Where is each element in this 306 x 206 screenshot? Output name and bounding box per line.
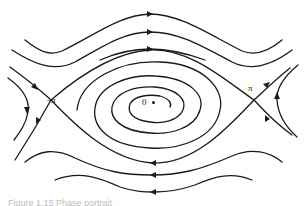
origin-point bbox=[152, 101, 155, 104]
spiral-trajectory bbox=[77, 62, 221, 148]
label-right-saddle: π bbox=[248, 84, 253, 93]
arrow-down-icon bbox=[24, 107, 30, 114]
arrow-right-icon bbox=[147, 29, 153, 35]
top-trajectory-1 bbox=[25, 14, 282, 53]
label-left-saddle: −π bbox=[46, 96, 56, 105]
figure-caption: Figure 1.15 Phase portrait bbox=[8, 199, 112, 206]
bottom-trajectory-2 bbox=[55, 175, 252, 192]
label-origin: 0 bbox=[142, 98, 147, 107]
arrow-up-icon bbox=[274, 92, 280, 99]
separatrix-lower bbox=[15, 100, 292, 163]
arrow-right-icon bbox=[147, 11, 153, 17]
arrow-left-icon bbox=[150, 172, 156, 178]
arrow-left-icon bbox=[150, 160, 156, 166]
arrow-left-icon bbox=[150, 189, 156, 195]
arrow-right-icon bbox=[147, 46, 153, 52]
arrow-up-right-icon bbox=[263, 82, 270, 88]
